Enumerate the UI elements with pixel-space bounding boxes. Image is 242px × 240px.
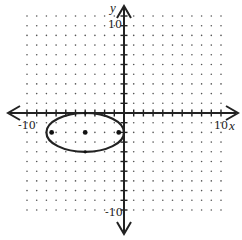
y-axis-label: y [108, 0, 116, 15]
point-co-vertex-bottom [84, 150, 87, 153]
x-max-tick-label: 10 [214, 119, 228, 132]
y-max-tick-label: 10 [108, 18, 122, 31]
coordinate-plane: -10 10 x 10 -10 y [0, 0, 242, 240]
point-co-vertex-top [84, 111, 87, 114]
x-min-tick-label: -10 [18, 119, 36, 132]
point-focus-right [116, 130, 121, 135]
y-min-tick-label: -10 [105, 206, 123, 219]
point-focus-left [49, 130, 54, 135]
x-axis-label: x [228, 118, 235, 133]
point-center [83, 130, 88, 135]
